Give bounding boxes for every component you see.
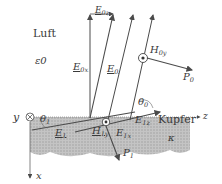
E1-label: E1 <box>55 128 66 140</box>
E0x-label: E0x <box>73 62 88 74</box>
z-axis-label: z <box>203 112 208 121</box>
H1y-label: H1y <box>92 126 109 138</box>
theta0-label: θ0 <box>138 97 148 109</box>
P1-label: P1 <box>123 148 134 160</box>
P0-vector <box>147 58 192 70</box>
H0y-label: H0y <box>150 45 167 57</box>
diagram-canvas: Luft ε0 E0z E0x E0 H0y P0 θ0 y θ1 E1 H1y… <box>0 0 222 184</box>
permittivity-label: ε0 <box>35 56 47 66</box>
E0-label: E0 <box>107 64 118 76</box>
medium-air-label: Luft <box>33 28 56 39</box>
E1z-label: E1z <box>135 115 150 127</box>
P0-label: P0 <box>183 72 194 84</box>
x-axis-label: x <box>36 171 42 181</box>
conductivity-label: κ <box>168 133 175 143</box>
E1x-label: E1x <box>116 128 131 140</box>
E0z-label: E0z <box>95 6 109 17</box>
theta1-label: θ1 <box>40 114 50 126</box>
y-axis-label: y <box>13 112 19 123</box>
medium-copper-label: Kupfer <box>158 114 196 125</box>
